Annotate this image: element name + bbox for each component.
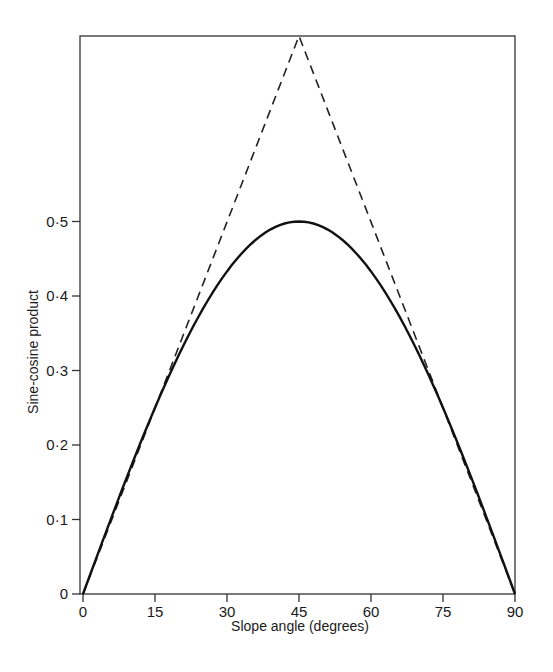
- x-axis-label: Slope angle (degrees): [231, 618, 369, 634]
- y-tick-label: 0·5: [46, 213, 68, 230]
- x-tick-label: 15: [147, 603, 164, 620]
- x-tick-label: 75: [435, 603, 452, 620]
- chart: 00·10·20·30·40·5 0153045607590 Slope ang…: [0, 0, 553, 672]
- y-axis-label: Sine-cosine product: [25, 290, 41, 414]
- y-tick-label: 0·1: [46, 511, 68, 528]
- x-tick-label: 90: [507, 603, 524, 620]
- y-tick-label: 0·3: [46, 362, 68, 379]
- y-tick-label: 0: [60, 585, 68, 602]
- plot-frame: [80, 36, 515, 594]
- dashed-series-line: [83, 36, 515, 594]
- y-axis-ticks: 00·10·20·30·40·5: [46, 213, 80, 603]
- y-tick-label: 0·4: [46, 287, 68, 304]
- solid-series-curve: [83, 222, 515, 595]
- x-tick-label: 0: [79, 603, 87, 620]
- x-axis-ticks: 0153045607590: [79, 594, 524, 620]
- y-tick-label: 0·2: [46, 436, 68, 453]
